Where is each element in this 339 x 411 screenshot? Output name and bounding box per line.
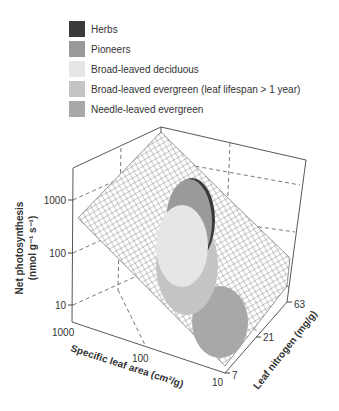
z-tick-100: 100 [49, 248, 66, 259]
y-tick-21: 21 [263, 332, 275, 343]
z-axis: 1000 100 10 Net photosynthesis (nmol g⁻¹… [14, 195, 73, 311]
z-axis-label-line2: (nmol g⁻¹ s⁻¹) [27, 216, 38, 280]
y-tick-63: 63 [294, 299, 306, 310]
chart-figure: Herbs Pioneers Broad-leaved deciduous Br… [0, 0, 339, 411]
x-tick-1000: 1000 [52, 327, 75, 338]
plot-3d: 1000 100 10 Net photosynthesis (nmol g⁻¹… [0, 0, 339, 411]
x-axis-label: Specific leaf area (cm²/g) [69, 342, 184, 389]
ellipse-broad-deciduous [156, 205, 208, 287]
x-tick-10: 10 [212, 377, 224, 388]
y-axis-label: Leaf nitrogen (mg/g) [251, 308, 319, 391]
z-tick-10: 10 [55, 300, 67, 311]
z-tick-1000: 1000 [44, 195, 67, 206]
y-tick-7: 7 [232, 370, 238, 381]
z-axis-label-line1: Net photosynthesis [14, 201, 25, 294]
